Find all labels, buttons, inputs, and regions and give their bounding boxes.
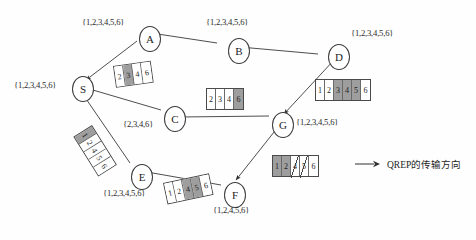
packet-cell: 4 (343, 80, 352, 100)
packet-cell: 5 (300, 156, 309, 176)
node-label: E (139, 171, 146, 183)
set-label-d: {1,2,3,4,5,6} (351, 28, 393, 38)
node-label: D (335, 51, 343, 63)
packet-g-to-c: 2346 (206, 88, 244, 110)
packet-cell: 6 (141, 62, 153, 83)
node-label: F (232, 189, 238, 201)
packet-cell: 3 (334, 80, 343, 100)
set-label-g: {1,2,3,4,5,6} (296, 117, 338, 127)
set-label-s: {1,2,3,4,5,6} (14, 80, 56, 90)
node-label: C (171, 113, 178, 125)
edge-b-d (240, 47, 318, 54)
node-b[interactable]: B (228, 38, 250, 64)
packet-cell: 1 (316, 80, 325, 100)
node-label: S (80, 83, 86, 95)
set-label-e: {1,2,3,4,5,6} (103, 188, 145, 198)
node-s[interactable]: S (72, 76, 94, 102)
packet-cell: 3 (216, 89, 225, 109)
packet-d-to-g: 123456 (315, 79, 371, 101)
node-label: G (279, 119, 287, 131)
set-label-a: {1,2,3,4,5,6} (82, 17, 124, 27)
node-e[interactable]: E (131, 164, 153, 190)
packet-cell: 6 (309, 156, 318, 176)
node-a[interactable]: A (139, 26, 161, 52)
packet-cell: 2 (207, 89, 216, 109)
set-label-b: {1,2,3,4,5,6} (206, 17, 248, 27)
node-g[interactable]: G (272, 112, 294, 138)
packet-cell: 1 (273, 156, 282, 176)
legend-arrow-icon (355, 159, 381, 169)
packet-cell: 2 (282, 156, 291, 176)
edge-c-s (86, 88, 161, 110)
legend: QREP的传输方向 (355, 157, 461, 171)
diagram-canvas: ABDSCGEF {1,2,3,4,5,6}{1,2,3,4,5,6}{1,2,… (0, 0, 476, 240)
set-label-c: {2,3,4,6} (123, 119, 153, 129)
packet-cell: 6 (361, 80, 370, 100)
legend-label: QREP的传输方向 (387, 157, 461, 171)
packet-g-to-f: 12456 (272, 155, 319, 177)
packet-cell: 2 (325, 80, 334, 100)
packet-cell: 4 (291, 156, 300, 176)
node-d[interactable]: D (328, 44, 350, 70)
packet-cell: 5 (352, 80, 361, 100)
edge-g-c (180, 116, 269, 117)
node-label: A (146, 33, 154, 45)
set-label-f: {1,2,4,5,6} (213, 205, 249, 215)
node-label: B (235, 45, 242, 57)
packet-cell: 4 (225, 89, 234, 109)
packet-cell: 6 (234, 89, 243, 109)
node-c[interactable]: C (164, 106, 186, 132)
